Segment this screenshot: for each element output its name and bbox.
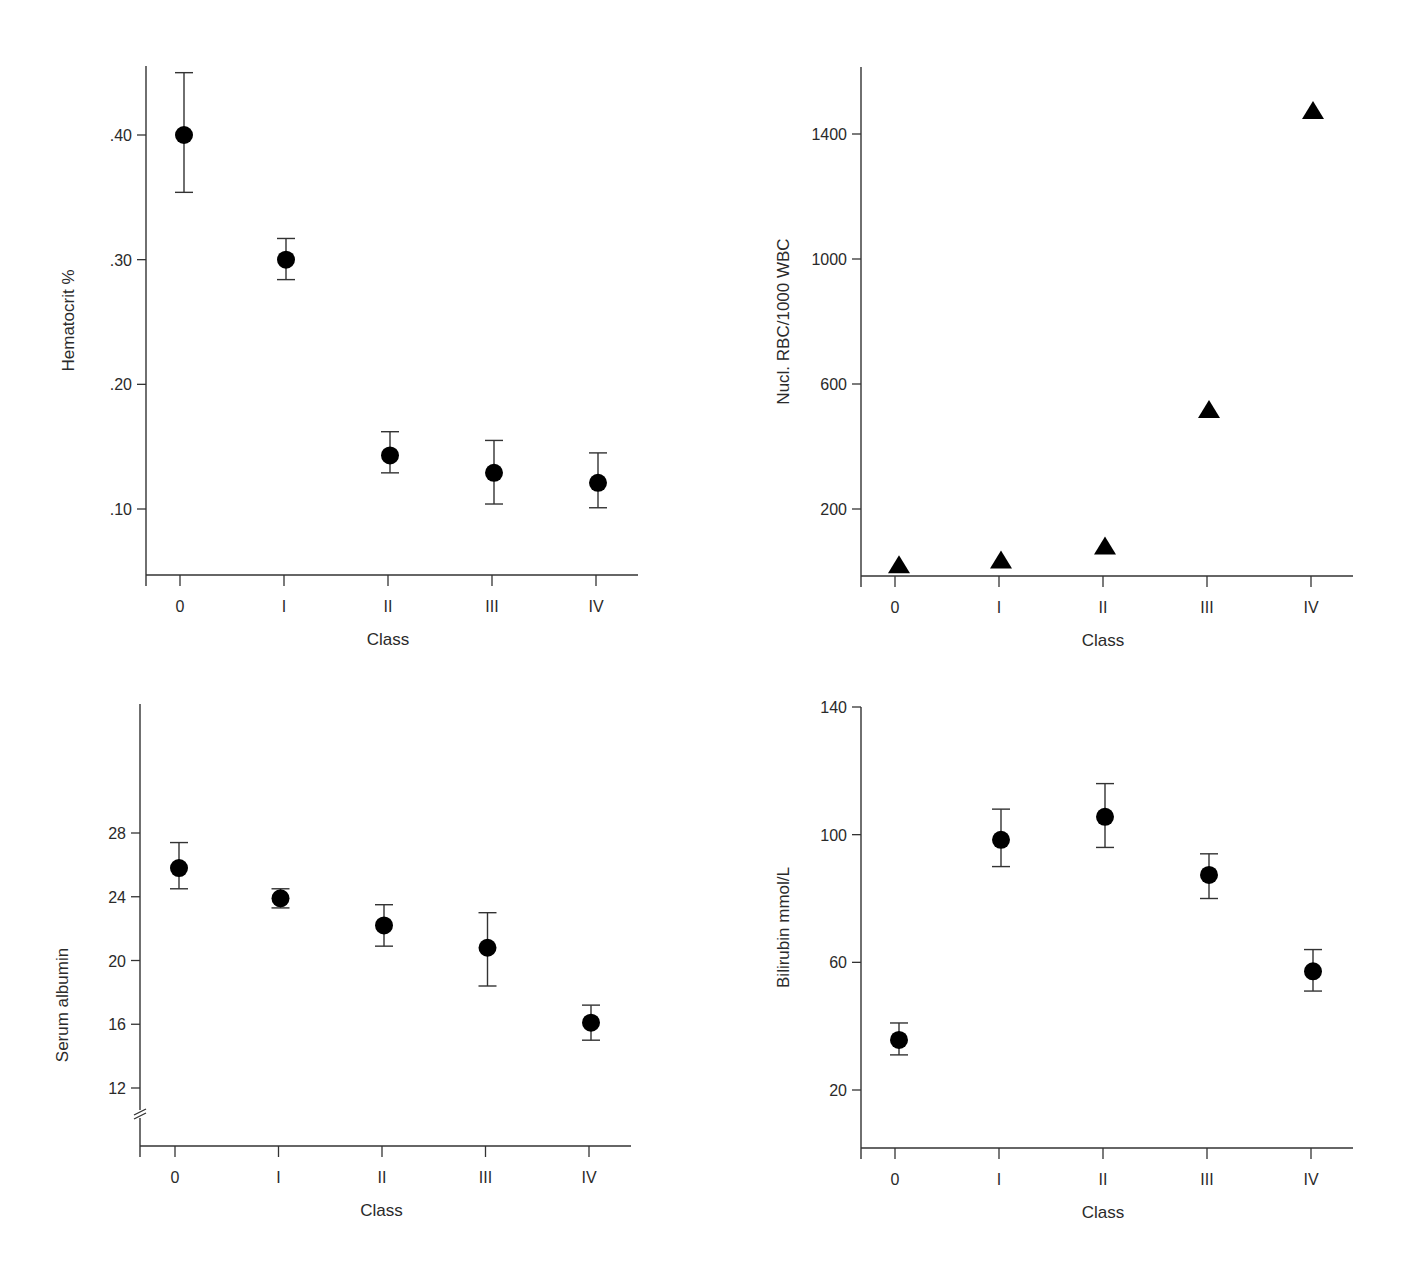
y-axis-title-hematocrit: Hematocrit % (59, 269, 78, 371)
circle-marker-icon (1096, 808, 1114, 826)
x-tick-label: III (1200, 599, 1213, 616)
x-tick-label: II (1099, 1171, 1108, 1188)
circle-marker-icon (485, 464, 503, 482)
data-point (1304, 950, 1322, 991)
data-point (381, 432, 399, 473)
data-point (277, 238, 295, 279)
data-point (990, 551, 1012, 569)
circle-marker-icon (375, 916, 393, 934)
data-points-nucleated-rbc (888, 101, 1324, 573)
x-tick-label: I (997, 1171, 1001, 1188)
y-tick-label: .40 (110, 127, 132, 144)
circle-marker-icon (1304, 962, 1322, 980)
x-tick-label: 0 (171, 1169, 180, 1186)
triangle-marker-icon (1302, 101, 1324, 119)
data-point (888, 555, 910, 573)
y-tick-label: 600 (820, 376, 847, 393)
x-tick-label: IV (1303, 1171, 1318, 1188)
x-tick-label: III (485, 598, 498, 615)
data-point (1094, 537, 1116, 555)
y-tick-label: .10 (110, 501, 132, 518)
circle-marker-icon (582, 1014, 600, 1032)
data-point (890, 1023, 908, 1055)
x-axis-title-bilirubin: Class (1082, 1203, 1125, 1222)
y-axis-title-nucleated-rbc: Nucl. RBC/1000 WBC (774, 238, 793, 404)
x-tick-label: II (1099, 599, 1108, 616)
data-point (479, 913, 497, 986)
panel-serum-albumin: 12162024280IIIIIIIV Class Serum albumin (53, 704, 631, 1220)
circle-marker-icon (890, 1031, 908, 1049)
panel-bilirubin: 20601001400IIIIIIIV Class Bilirubin mmol… (774, 699, 1353, 1222)
data-point (1200, 854, 1218, 899)
data-point (589, 453, 607, 508)
data-point (485, 440, 503, 504)
x-axis-title-serum-albumin: Class (360, 1201, 403, 1220)
data-points-hematocrit (175, 73, 607, 508)
circle-marker-icon (992, 831, 1010, 849)
y-tick-label: 1400 (811, 126, 847, 143)
y-tick-label: 60 (829, 954, 847, 971)
data-point (272, 889, 290, 908)
x-tick-label: III (1200, 1171, 1213, 1188)
circle-marker-icon (479, 939, 497, 957)
data-point (1096, 784, 1114, 848)
y-axis-title-serum-albumin: Serum albumin (53, 948, 72, 1062)
y-tick-label: 1000 (811, 251, 847, 268)
data-point (375, 905, 393, 946)
y-axis-title-bilirubin: Bilirubin mmol/L (774, 867, 793, 988)
axes-bilirubin: 20601001400IIIIIIIV (820, 699, 1353, 1188)
triangle-marker-icon (1094, 537, 1116, 555)
data-point (992, 809, 1010, 866)
axes-hematocrit: .10.20.30.400IIIIIIIV (110, 66, 638, 615)
circle-marker-icon (589, 474, 607, 492)
y-tick-label: 20 (108, 953, 126, 970)
x-axis-title-hematocrit: Class (367, 630, 410, 649)
triangle-marker-icon (888, 555, 910, 573)
x-tick-label: IV (1303, 599, 1318, 616)
triangle-marker-icon (990, 551, 1012, 569)
y-tick-label: 140 (820, 699, 847, 716)
x-tick-label: I (282, 598, 286, 615)
circle-marker-icon (272, 889, 290, 907)
y-tick-label: 100 (820, 827, 847, 844)
figure-4-panel-chart: .10.20.30.400IIIIIIIV Class Hematocrit %… (0, 0, 1404, 1272)
axes-nucleated-rbc: 200600100014000IIIIIIIV (811, 67, 1353, 616)
x-tick-label: 0 (176, 598, 185, 615)
x-tick-label: 0 (891, 1171, 900, 1188)
x-axis-title-nucleated-rbc: Class (1082, 631, 1125, 650)
panel-hematocrit: .10.20.30.400IIIIIIIV Class Hematocrit % (59, 66, 638, 649)
x-tick-label: II (378, 1169, 387, 1186)
y-tick-label: 24 (108, 889, 126, 906)
x-tick-label: IV (588, 598, 603, 615)
circle-marker-icon (381, 446, 399, 464)
y-tick-label: 20 (829, 1082, 847, 1099)
circle-marker-icon (170, 859, 188, 877)
x-tick-label: IV (581, 1169, 596, 1186)
data-points-bilirubin (890, 784, 1322, 1055)
data-point (1198, 400, 1220, 418)
axes-serum-albumin: 12162024280IIIIIIIV (108, 704, 631, 1186)
data-point (175, 73, 193, 193)
y-tick-label: .20 (110, 376, 132, 393)
data-point (582, 1005, 600, 1040)
x-tick-label: I (997, 599, 1001, 616)
x-tick-label: II (384, 598, 393, 615)
triangle-marker-icon (1198, 400, 1220, 418)
y-tick-label: 28 (108, 825, 126, 842)
x-tick-label: III (479, 1169, 492, 1186)
y-tick-label: 200 (820, 501, 847, 518)
y-tick-label: 12 (108, 1080, 126, 1097)
x-tick-label: I (276, 1169, 280, 1186)
data-point (1302, 101, 1324, 119)
data-point (170, 843, 188, 889)
data-points-serum-albumin (170, 843, 600, 1041)
panel-nucleated-rbc: 200600100014000IIIIIIIV Class Nucl. RBC/… (774, 67, 1353, 650)
circle-marker-icon (175, 126, 193, 144)
axis-break-icon (134, 1109, 146, 1119)
circle-marker-icon (1200, 866, 1218, 884)
y-tick-label: .30 (110, 252, 132, 269)
y-tick-label: 16 (108, 1016, 126, 1033)
circle-marker-icon (277, 251, 295, 269)
x-tick-label: 0 (891, 599, 900, 616)
